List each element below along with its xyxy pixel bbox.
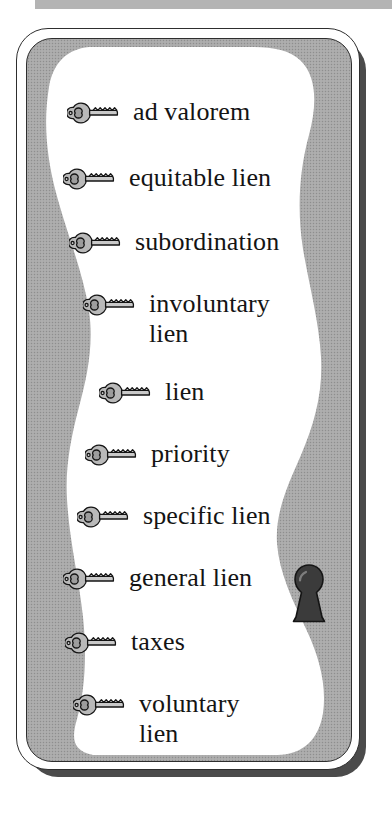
list-item: taxes (65, 627, 185, 657)
key-icon (83, 293, 135, 317)
term-label: ad valorem (133, 97, 250, 127)
term-label: subordination (135, 227, 279, 257)
list-item: ad valorem (67, 97, 250, 127)
term-label: specific lien (143, 501, 271, 531)
term-label: general lien (129, 563, 252, 593)
list-item: involuntary lien (83, 289, 270, 349)
term-label: lien (165, 377, 204, 407)
scan-edge-strip (35, 0, 392, 9)
term-label: voluntary lien (139, 689, 240, 749)
key-icon (65, 631, 117, 655)
list-item: equitable lien (63, 163, 271, 193)
key-icon (63, 567, 115, 591)
key-icon (85, 443, 137, 467)
key-icon (63, 167, 115, 191)
term-label: involuntary lien (149, 289, 270, 349)
key-icon (77, 505, 129, 529)
key-icon (99, 381, 151, 405)
list-item: subordination (69, 227, 279, 257)
list-item: priority (85, 439, 230, 469)
list-item: specific lien (77, 501, 271, 531)
term-label: equitable lien (129, 163, 271, 193)
list-item: lien (99, 377, 204, 407)
key-icon (69, 231, 121, 255)
key-icon (73, 693, 125, 717)
term-label: taxes (131, 627, 185, 657)
list-item: voluntary lien (73, 689, 240, 749)
term-label: priority (151, 439, 230, 469)
card-outer-border: ad valorem equitable lien (16, 28, 360, 770)
term-list: ad valorem equitable lien (27, 39, 352, 762)
list-item: general lien (63, 563, 252, 593)
card-gray-panel: ad valorem equitable lien (26, 38, 352, 762)
key-icon (67, 101, 119, 125)
key-terms-card: ad valorem equitable lien (16, 28, 376, 818)
